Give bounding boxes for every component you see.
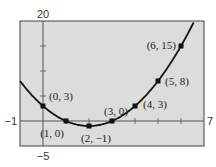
data-point-label: (3, 0) (104, 105, 128, 118)
data-point-label: (0, 3) (49, 90, 73, 103)
data-point-marker (133, 104, 138, 109)
ymin-label: −5 (37, 150, 50, 162)
data-point-marker (41, 104, 46, 109)
data-point-marker (87, 124, 92, 129)
data-point-marker (179, 44, 184, 49)
data-point-marker (110, 119, 115, 124)
xmin-label: −1 (4, 115, 17, 127)
data-point-label: (5, 8) (165, 75, 189, 88)
data-point-label: (1, 0) (40, 127, 64, 140)
data-point-label: (2, −1) (81, 132, 111, 145)
data-point-marker (64, 119, 69, 124)
data-point-marker (156, 79, 161, 84)
data-point-label: (6, 15) (147, 39, 177, 52)
xmax-label: 7 (207, 115, 213, 127)
parabola-chart: (0, 3)(1, 0)(2, −1)(3, 0)(4, 3)(5, 8)(6,… (0, 0, 216, 167)
data-point-label: (4, 3) (143, 98, 167, 111)
ymax-label: 20 (37, 8, 49, 20)
